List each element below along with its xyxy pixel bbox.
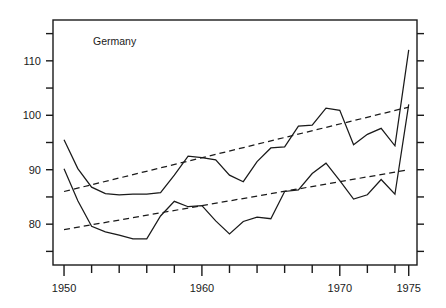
- series-annotation-label: Germany: [93, 35, 137, 47]
- chart-container: 11010090801950196019701975 Germany: [0, 0, 446, 308]
- line-chart: 11010090801950196019701975 Germany: [0, 0, 446, 308]
- chart-background: [0, 0, 446, 308]
- y-tick-label: 100: [23, 109, 41, 121]
- x-tick-label: 1960: [190, 282, 214, 294]
- y-tick-label: 90: [29, 164, 41, 176]
- x-tick-label: 1975: [396, 282, 420, 294]
- x-tick-label: 1970: [328, 282, 352, 294]
- y-tick-label: 110: [23, 55, 41, 67]
- x-tick-label: 1950: [52, 282, 76, 294]
- y-tick-label: 80: [29, 218, 41, 230]
